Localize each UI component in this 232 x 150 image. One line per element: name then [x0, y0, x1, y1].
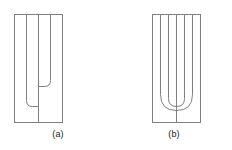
panel-a-outer-u-curve: [27, 15, 39, 107]
panel-a-diagram: [0, 0, 116, 128]
figure-panel-b: (b): [116, 0, 232, 150]
panel-b-diagram: [116, 0, 232, 128]
panel-b-caption: (b): [116, 128, 232, 140]
figure-root: (a) (b): [0, 0, 232, 150]
panel-a-inner-u-curve: [39, 15, 51, 87]
panel-a-caption: (a): [0, 128, 116, 140]
figure-panel-a: (a): [0, 0, 116, 150]
